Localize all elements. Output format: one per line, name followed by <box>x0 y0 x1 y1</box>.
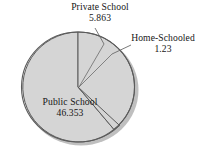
slice-label-home-schooled-value: 1.23 <box>122 44 204 55</box>
slice-label-private-school-value: 5.863 <box>52 13 148 24</box>
slice-label-public-school-value: 46.353 <box>26 108 114 119</box>
slice-label-public-school: Public School 46.353 <box>26 97 114 118</box>
slice-label-private-school: Private School 5.863 <box>52 2 148 23</box>
slice-label-home-schooled: Home-Schooled 1.23 <box>122 33 204 54</box>
pie-chart: Private School 5.863 Home-Schooled 1.23 … <box>0 0 204 152</box>
